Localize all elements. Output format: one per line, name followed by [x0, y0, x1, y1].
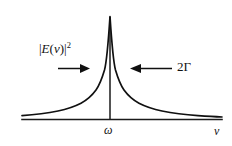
intensity-label: |E(ν)|2 [39, 42, 71, 55]
gamma-symbol: Γ [184, 59, 192, 74]
frequency-axis-label: ν [214, 125, 219, 137]
center-frequency-tick-label: ω [104, 124, 112, 136]
plot-canvas [0, 0, 232, 146]
fwhm-right-arrowhead [130, 64, 141, 73]
lorentzian-lineshape-figure: |E(ν)|2 2Γ ω ν [0, 0, 232, 146]
fwhm-label: 2Γ [177, 60, 191, 73]
fwhm-left-arrowhead [80, 64, 90, 73]
intensity-field-symbol: E [42, 41, 50, 56]
lorentzian-curve [22, 17, 222, 118]
intensity-exponent: 2 [67, 40, 71, 50]
